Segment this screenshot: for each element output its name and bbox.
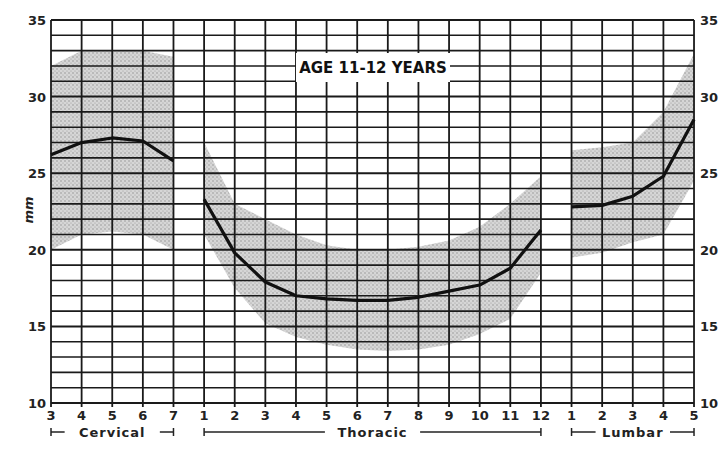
x-tick: 12 — [532, 408, 550, 423]
x-tick: 1 — [200, 408, 209, 423]
y-tick-left: 15 — [28, 319, 46, 334]
x-tick: 5 — [689, 408, 698, 423]
y-tick-right: 20 — [700, 243, 718, 258]
y-tick-left: 35 — [28, 13, 46, 28]
x-tick: 7 — [383, 408, 392, 423]
y-axis-label: mm — [21, 196, 36, 223]
y-tick-left: 25 — [28, 166, 46, 181]
y-tick-right: 35 — [700, 13, 718, 28]
title-box: AGE 11-12 YEARS — [296, 53, 450, 82]
x-tick: 4 — [77, 408, 86, 423]
x-tick: 7 — [169, 408, 178, 423]
y-tick-right: 30 — [700, 90, 718, 105]
x-tick: 8 — [414, 408, 423, 423]
x-tick: 2 — [230, 408, 239, 423]
x-tick: 11 — [501, 408, 519, 423]
x-tick: 3 — [628, 408, 637, 423]
y-tick-right: 10 — [700, 396, 718, 411]
y-tick-left: 20 — [28, 243, 46, 258]
x-tick: 9 — [445, 408, 454, 423]
region-label-lumbar: Lumbar — [602, 425, 664, 440]
x-tick: 5 — [322, 408, 331, 423]
y-tick-left: 30 — [28, 90, 46, 105]
chart-title: AGE 11-12 YEARS — [299, 59, 447, 77]
x-tick: 2 — [598, 408, 607, 423]
y-tick-right: 15 — [700, 319, 718, 334]
y-tick-right: 25 — [700, 166, 718, 181]
x-tick: 6 — [138, 408, 147, 423]
spine-chart: 10101515202025253030353534567Cervical123… — [0, 0, 723, 455]
x-tick: 6 — [353, 408, 362, 423]
region-label-thoracic: Thoracic — [337, 425, 407, 440]
x-tick: 10 — [471, 408, 489, 423]
x-tick: 4 — [291, 408, 300, 423]
x-tick: 4 — [659, 408, 668, 423]
region-label-cervical: Cervical — [79, 425, 146, 440]
y-tick-left: 10 — [28, 396, 46, 411]
x-tick: 3 — [261, 408, 270, 423]
x-tick: 3 — [46, 408, 55, 423]
x-tick: 5 — [108, 408, 117, 423]
x-tick: 1 — [567, 408, 576, 423]
